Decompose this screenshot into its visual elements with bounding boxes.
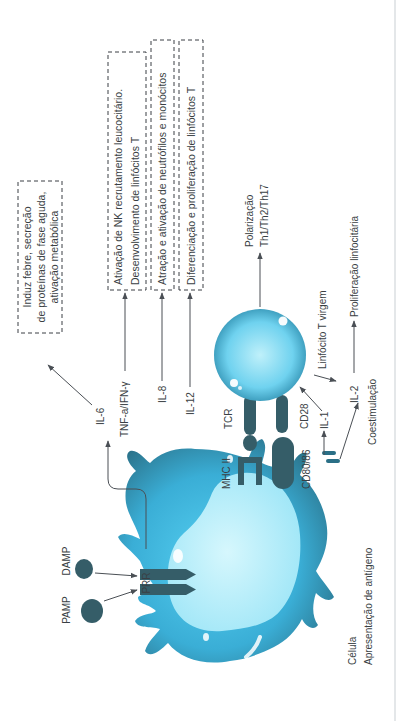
- naive-t-lymphocyte: [214, 309, 306, 401]
- cd28: [276, 395, 288, 433]
- il12-effect-box: Diferenciação e proliferação de linfócit…: [179, 40, 203, 290]
- diagram-canvas: PAMP DAMP PRR MHC II TCR CD80/86 CD28 Li…: [0, 0, 401, 721]
- cd28-label: CD28: [299, 403, 310, 429]
- polarization-label: Polarização: [244, 194, 255, 247]
- il6-effect-box: Induz febre, secreção de proteínas de fa…: [18, 181, 62, 333]
- cd80-86: [272, 437, 294, 489]
- apc-label-presentation: Apresentação de antígeno: [363, 547, 374, 665]
- pamp-molecule: [81, 599, 103, 623]
- tcr: [244, 395, 256, 435]
- mhc-label: MHC II: [221, 458, 232, 489]
- il2-label: IL-2: [349, 385, 360, 403]
- il8-effect-box: Atração e ativação de neutrófilos e monó…: [151, 40, 174, 290]
- tcr-label: TCR: [223, 408, 234, 429]
- il8-label: IL-8: [157, 385, 168, 403]
- tcell-label: Linfócito T virgem: [317, 290, 328, 369]
- polarization-subsets: Th1/Th2/Th17: [259, 184, 270, 247]
- svg-text:Atração e ativação de neutrófi: Atração e ativação de neutrófilos e monó…: [156, 73, 168, 285]
- svg-text:Induz febre, secreção: Induz febre, secreção: [21, 206, 33, 307]
- svg-text:ativação metabólica: ativação metabólica: [48, 210, 60, 303]
- svg-text:Diferenciação e proliferação d: Diferenciação e proliferação de linfócit…: [185, 86, 197, 285]
- costimulation-label: Coestimulação: [367, 378, 378, 445]
- tnf-label: TNF-a/IFN-γ: [119, 381, 130, 437]
- tnf-effect-box: Ativação de NK recrutamento leucocitário…: [108, 52, 146, 290]
- il6-label: IL-6: [95, 407, 106, 425]
- svg-text:Ativação de NK recrutamento le: Ativação de NK recrutamento leucocitário…: [112, 89, 124, 285]
- svg-text:de proteínas de fase aguda,: de proteínas de fase aguda,: [35, 192, 47, 323]
- prr-label: PRR: [141, 572, 152, 593]
- proliferation-label: Proliferação linfocitária: [349, 215, 360, 317]
- cd80-label: CD80/86: [301, 449, 312, 489]
- il12-label: IL-12: [185, 392, 196, 415]
- pamp-label: PAMP: [61, 596, 72, 624]
- il1-label: IL-1: [319, 411, 330, 429]
- damp-molecule: [75, 559, 93, 579]
- damp-label: DAMP: [61, 546, 72, 575]
- svg-text:Desenvolvimento de linfócitos: Desenvolvimento de linfócitos T: [129, 136, 141, 285]
- apc-label-cell: Célula: [347, 636, 358, 665]
